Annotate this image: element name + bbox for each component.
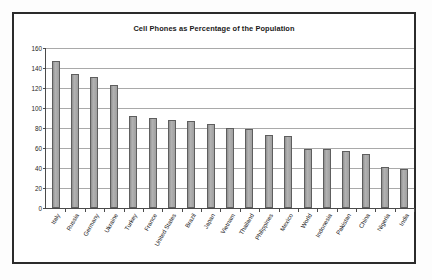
x-tick-label: Brazil: [183, 212, 197, 229]
chart-screenshot: Cell Phones as Percentage of the Populat…: [0, 0, 432, 280]
bar-cell: [46, 48, 65, 208]
y-tick-label: 60: [35, 145, 42, 152]
y-tick-label: 80: [35, 125, 42, 132]
bar: [323, 149, 331, 208]
x-tick-label: Japan: [202, 212, 216, 230]
bar-cell: [298, 48, 317, 208]
x-label-cell: Mexico: [278, 210, 297, 272]
x-label-cell: Pakistan: [336, 210, 355, 272]
x-tick-label: Nigeria: [375, 212, 391, 232]
bar-cell: [337, 48, 356, 208]
x-tick-label: Vietnam: [218, 212, 235, 235]
y-tick-label: 160: [31, 45, 42, 52]
chart-title: Cell Phones as Percentage of the Populat…: [14, 24, 414, 33]
x-label-cell: Nigeria: [375, 210, 394, 272]
x-label-cell: Russia: [64, 210, 83, 272]
x-label-cell: China: [356, 210, 375, 272]
bar-cell: [143, 48, 162, 208]
bar: [129, 116, 137, 208]
x-label-cell: Japan: [200, 210, 219, 272]
plot-area: 020406080100120140160: [45, 48, 414, 209]
bar: [90, 77, 98, 208]
bar: [342, 151, 350, 208]
bar-cell: [85, 48, 104, 208]
bar-cell: [201, 48, 220, 208]
x-tick-label: Russia: [65, 212, 80, 232]
x-tick-label: India: [398, 212, 411, 227]
bar-cell: [375, 48, 394, 208]
y-tick-label: 100: [31, 105, 42, 112]
bar: [265, 135, 273, 208]
bar-cell: [279, 48, 298, 208]
bar: [304, 149, 312, 208]
x-label-cell: Philippines: [259, 210, 278, 272]
bar-cell: [220, 48, 239, 208]
bar: [400, 169, 408, 208]
bar-cell: [240, 48, 259, 208]
y-tick-label: 0: [38, 205, 42, 212]
x-label-cell: United States: [162, 210, 181, 272]
x-tick-label: Thailand: [237, 212, 255, 236]
y-tick-label: 120: [31, 85, 42, 92]
x-tick-label: Germany: [81, 212, 100, 237]
bar: [110, 85, 118, 208]
bar: [207, 124, 215, 208]
x-tick-label: Ukraine: [102, 212, 119, 234]
bar: [245, 129, 253, 208]
x-axis-labels: ItalyRussiaGermanyUkraineTurkeyFranceUni…: [45, 210, 414, 272]
bar-cell: [259, 48, 278, 208]
x-label-cell: Ukraine: [103, 210, 122, 272]
bar-cell: [356, 48, 375, 208]
x-label-cell: Indonesia: [317, 210, 336, 272]
x-tick-label: Indonesia: [313, 212, 332, 238]
bar: [362, 154, 370, 208]
bar-cell: [104, 48, 123, 208]
bar-cell: [182, 48, 201, 208]
x-tick-label: Italy: [49, 212, 61, 225]
y-tick-label: 20: [35, 185, 42, 192]
x-tick-mark: [414, 208, 415, 212]
bar: [52, 61, 60, 208]
x-tick-label: Turkey: [123, 212, 138, 231]
y-tick-label: 140: [31, 65, 42, 72]
bar-cell: [124, 48, 143, 208]
x-label-cell: Vietnam: [220, 210, 239, 272]
x-tick-label: France: [142, 212, 158, 232]
bar: [381, 167, 389, 208]
bar: [149, 118, 157, 208]
bar: [187, 121, 195, 208]
bar-cell: [65, 48, 84, 208]
bar-series: [46, 48, 414, 208]
x-label-cell: India: [395, 210, 414, 272]
x-label-cell: Thailand: [239, 210, 258, 272]
x-tick-label: Pakistan: [334, 212, 352, 236]
bar: [168, 120, 176, 208]
bar: [284, 136, 292, 208]
x-label-cell: World: [297, 210, 316, 272]
bar: [71, 74, 79, 208]
bar: [226, 128, 234, 208]
x-label-cell: Brazil: [181, 210, 200, 272]
chart-frame: Cell Phones as Percentage of the Populat…: [12, 12, 416, 264]
x-label-cell: Turkey: [123, 210, 142, 272]
x-tick-label: Mexico: [278, 212, 294, 232]
bar-cell: [395, 48, 414, 208]
x-tick-label: China: [357, 212, 371, 229]
x-label-cell: Germany: [84, 210, 103, 272]
bar-cell: [162, 48, 181, 208]
y-tick-mark: [43, 208, 46, 209]
bar-cell: [317, 48, 336, 208]
x-tick-label: World: [299, 212, 313, 229]
y-tick-label: 40: [35, 165, 42, 172]
x-label-cell: Italy: [45, 210, 64, 272]
